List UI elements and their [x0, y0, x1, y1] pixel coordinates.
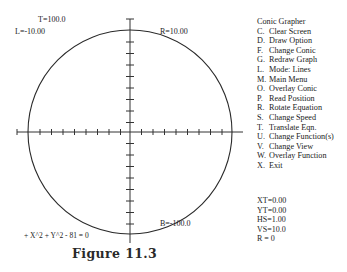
- menu-label: Change View: [269, 142, 313, 152]
- menu-key: X.: [257, 161, 269, 171]
- graph-area: T=100.0 L=-10.00 R=10.00 B=-100.0 + X^2 …: [0, 0, 250, 250]
- menu-label: Overlay Conic: [269, 84, 317, 94]
- menu-label: Change Speed: [269, 113, 316, 123]
- menu-label: Change Function(s): [269, 132, 334, 142]
- status-yt: YT=0.00: [257, 206, 286, 216]
- menu-item-translate-eqn[interactable]: T.Translate Eqn.: [257, 123, 334, 133]
- menu-key: D.: [257, 36, 269, 46]
- menu-key: M.: [257, 75, 269, 85]
- conic-plot: [0, 0, 250, 250]
- menu-item-mode-lines[interactable]: L.Mode: Lines: [257, 65, 334, 75]
- menu-title: Conic Grapher: [257, 17, 334, 27]
- menu-key: V.: [257, 142, 269, 152]
- menu-label: Clear Screen: [269, 27, 311, 37]
- command-menu: Conic Grapher C.Clear Screen D.Draw Opti…: [257, 17, 334, 171]
- menu-item-read-position[interactable]: P.Read Position: [257, 94, 334, 104]
- menu-item-draw-option[interactable]: D.Draw Option: [257, 36, 334, 46]
- menu-item-change-speed[interactable]: S.Change Speed: [257, 113, 334, 123]
- figure-caption: Figure 11.3: [72, 246, 157, 261]
- menu-item-clear-screen[interactable]: C.Clear Screen: [257, 27, 334, 37]
- menu-label: Change Conic: [269, 46, 316, 56]
- top-bound-label: T=100.0: [38, 15, 65, 24]
- status-vs: VS=10.0: [257, 225, 286, 235]
- menu-item-overlay-function[interactable]: W.Overlay Function: [257, 151, 334, 161]
- right-bound-label: R=10.00: [160, 27, 188, 36]
- menu-key: P.: [257, 94, 269, 104]
- menu-label: Translate Eqn.: [269, 123, 316, 133]
- left-bound-label: L=-10.00: [15, 27, 45, 36]
- menu-key: R.: [257, 103, 269, 113]
- menu-label: Overlay Function: [269, 151, 327, 161]
- menu-item-exit[interactable]: X.Exit: [257, 161, 334, 171]
- status-xt: XT=0.00: [257, 196, 286, 206]
- menu-item-change-functions[interactable]: U.Change Function(s): [257, 132, 334, 142]
- menu-item-rotate-equation[interactable]: R.Rotate Equation: [257, 103, 334, 113]
- menu-label: Draw Option: [269, 36, 312, 46]
- menu-key: F.: [257, 46, 269, 56]
- menu-label: Main Menu: [269, 75, 307, 85]
- menu-label: Redraw Graph: [269, 55, 317, 65]
- status-panel: XT=0.00 YT=0.00 HS=1.00 VS=10.0 R = 0: [257, 196, 286, 244]
- equation-label: + X^2 + Y^2 - 81 = 0: [24, 231, 89, 240]
- menu-key: C.: [257, 27, 269, 37]
- menu-item-main-menu[interactable]: M.Main Menu: [257, 75, 334, 85]
- menu-key: L.: [257, 65, 269, 75]
- menu-label: Read Position: [269, 94, 315, 104]
- menu-item-change-conic[interactable]: F.Change Conic: [257, 46, 334, 56]
- menu-key: U.: [257, 132, 269, 142]
- menu-label: Exit: [269, 161, 283, 171]
- menu-label: Rotate Equation: [269, 103, 322, 113]
- menu-key: T.: [257, 123, 269, 133]
- status-hs: HS=1.00: [257, 215, 286, 225]
- menu-item-overlay-conic[interactable]: O.Overlay Conic: [257, 84, 334, 94]
- menu-key: G.: [257, 55, 269, 65]
- menu-item-change-view[interactable]: V.Change View: [257, 142, 334, 152]
- y-axis: [126, 19, 134, 243]
- menu-label: Mode: Lines: [269, 65, 311, 75]
- menu-item-redraw-graph[interactable]: G.Redraw Graph: [257, 55, 334, 65]
- bottom-bound-label: B=-100.0: [160, 219, 191, 228]
- status-r: R = 0: [257, 234, 286, 244]
- menu-key: S.: [257, 113, 269, 123]
- menu-key: W.: [257, 151, 269, 161]
- menu-key: O.: [257, 84, 269, 94]
